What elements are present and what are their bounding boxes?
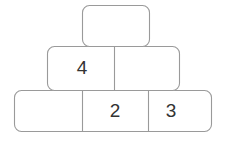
bottom-cell-0[interactable] xyxy=(15,91,83,132)
number-pyramid-puzzle: 2 3 4 xyxy=(0,0,226,145)
top-cell-0[interactable] xyxy=(83,6,150,47)
bottom-cell-2-label: 3 xyxy=(166,100,177,121)
bottom-cell-1-label: 2 xyxy=(110,100,121,121)
bottom-row: 2 3 xyxy=(15,91,212,132)
middle-cell-0-label: 4 xyxy=(77,57,88,78)
middle-row: 4 xyxy=(48,47,180,91)
bottom-cell-2[interactable] xyxy=(149,91,212,132)
middle-cell-1[interactable] xyxy=(115,47,180,91)
top-row xyxy=(83,6,150,47)
pyramid-diagram: 2 3 4 xyxy=(0,0,226,145)
